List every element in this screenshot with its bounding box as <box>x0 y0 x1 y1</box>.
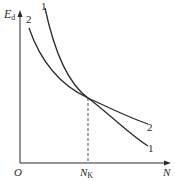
curve-1-top-label: 1 <box>41 0 47 12</box>
curve-1-end-label: 1 <box>148 142 154 154</box>
y-axis-label: Ed <box>3 7 15 22</box>
curve-2-end-label: 2 <box>147 121 153 133</box>
curve-2-top-label: 2 <box>26 13 32 25</box>
nk-label: NK <box>79 166 93 180</box>
diagram-canvas: Ed 1 2 2 1 O NK N <box>0 0 175 181</box>
y-axis-arrow-icon <box>18 10 23 17</box>
x-axis-arrow-icon <box>164 161 171 166</box>
curve-1 <box>45 8 148 146</box>
x-axis-label: N <box>162 166 171 178</box>
origin-label: O <box>14 166 22 178</box>
